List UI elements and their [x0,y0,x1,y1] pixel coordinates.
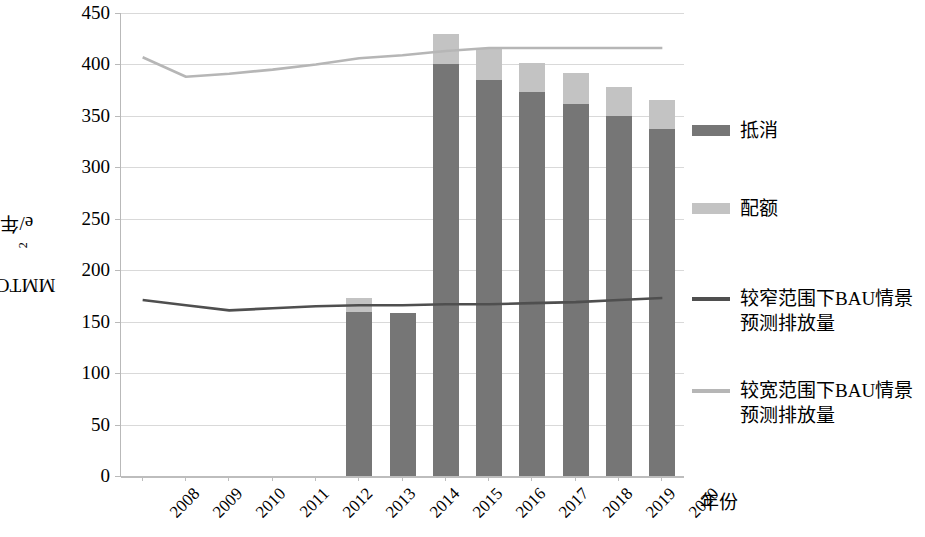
y-axis-tick-label: 300 [82,156,111,178]
legend-swatch-icon [692,389,730,393]
y-axis-tick-label: 50 [91,414,110,436]
x-axis-tick-mark [618,476,619,481]
y-axis-tick-label: 400 [82,53,111,75]
legend-label: 较窄范围下BAU情景 预测排放量 [740,286,913,336]
x-axis-tick-mark [661,476,662,481]
legend-offset[interactable]: 抵消 [692,118,778,143]
x-axis-tick-mark [488,476,489,481]
y-axis-tick-label: 100 [82,362,111,384]
y-axis-tick-label: 150 [82,311,111,333]
y-axis-title: MMTCO2e/年 [2,150,32,380]
legend-label: 抵消 [740,118,778,143]
x-axis-tick-mark [358,476,359,481]
x-axis-tick-label: 2014 [425,484,463,522]
x-axis-tick-mark [272,476,273,481]
x-axis-tick-mark [402,476,403,481]
legend-swatch-icon [692,125,730,136]
x-axis-tick-label: 2011 [295,484,333,522]
legend-label: 较宽范围下BAU情景 预测排放量 [740,378,913,428]
legend-allowance[interactable]: 配额 [692,196,778,221]
y-axis-tick-label: 200 [82,259,111,281]
legend-swatch-icon [692,203,730,214]
x-axis-tick-label: 2018 [599,484,637,522]
x-axis-tick-mark [575,476,576,481]
x-axis-tick-mark [445,476,446,481]
x-axis-tick-mark [315,476,316,481]
x-axis-tick-label: 2010 [252,484,290,522]
emissions-stacked-bar-chart: MMTCO2e/年 050100150200250300350400450 20… [0,0,925,537]
legend-label: 配额 [740,196,778,221]
x-axis-tick-mark [142,476,143,481]
x-axis-tick-mark [531,476,532,481]
x-axis-tick-labels: 2008200920102011201220132014201520162017… [120,476,683,536]
y-axis-tick-label: 450 [82,2,111,24]
x-axis-tick-label: 2008 [166,484,204,522]
legend-narrow-bau[interactable]: 较窄范围下BAU情景 预测排放量 [692,286,913,336]
legend-swatch-icon [692,297,730,301]
x-axis-tick-label: 2009 [209,484,247,522]
x-axis-tick-label: 2013 [382,484,420,522]
y-axis-title-post: e/年 [0,212,33,239]
y-axis-tick-labels: 050100150200250300350400450 [30,0,118,490]
line-series-group [121,13,684,476]
x-axis-tick-label: 2019 [642,484,680,522]
line-series [143,298,663,310]
x-axis-tick-label: 2017 [555,484,593,522]
x-axis-tick-mark [185,476,186,481]
x-axis-tick-label: 2015 [469,484,507,522]
plot-area [120,13,684,476]
x-axis-tick-mark [228,476,229,481]
y-axis-tick-label: 350 [82,105,111,127]
y-axis-title-sub: 2 [16,242,30,248]
legend-wide-bau[interactable]: 较宽范围下BAU情景 预测排放量 [692,378,913,428]
line-series [143,48,663,77]
x-axis-tick-label: 2012 [339,484,377,522]
y-axis-tick-label: 250 [82,208,111,230]
y-axis-tick-label: 0 [101,465,111,487]
x-axis-tick-label: 2016 [512,484,550,522]
x-axis-title: 年份 [700,487,738,514]
